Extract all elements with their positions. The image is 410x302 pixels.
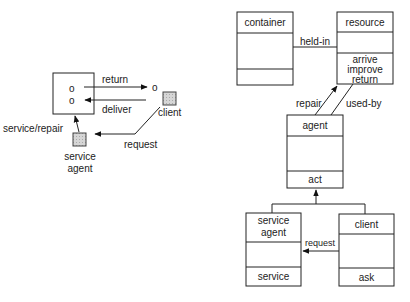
agent-class-name: agent <box>287 120 343 131</box>
service-agent-label-2: agent <box>60 163 100 174</box>
agent-op-act: act <box>287 174 343 185</box>
used-by-label: used-by <box>346 98 382 109</box>
client-icon <box>163 92 176 105</box>
client-label: client <box>158 107 181 118</box>
service-agent-icon <box>73 133 86 146</box>
client-class-name: client <box>339 219 394 230</box>
diagram-canvas: o o o return deliver client request serv… <box>0 0 410 302</box>
service-repair-label: service/repair <box>3 123 63 134</box>
client-op-ask: ask <box>339 272 394 283</box>
service-agent-class-name-2: agent <box>246 227 301 238</box>
service-repair-arrow <box>75 116 79 132</box>
request-association-label: request <box>305 238 335 249</box>
return-label: return <box>102 74 128 85</box>
request-label: request <box>124 139 157 150</box>
container-slot-2: o <box>69 95 75 106</box>
container-class-name: container <box>237 17 293 28</box>
client-object: o <box>152 82 158 93</box>
service-agent-op-service: service <box>246 271 301 282</box>
held-in-label: held-in <box>300 36 330 47</box>
repair-label: repair <box>296 98 322 109</box>
service-agent-class-name-1: service <box>246 215 301 226</box>
deliver-label: deliver <box>102 104 131 115</box>
resource-op-return: return <box>337 74 393 85</box>
service-agent-label-1: service <box>60 151 100 162</box>
container-slot-1: o <box>69 83 75 94</box>
resource-class-name: resource <box>337 17 393 28</box>
